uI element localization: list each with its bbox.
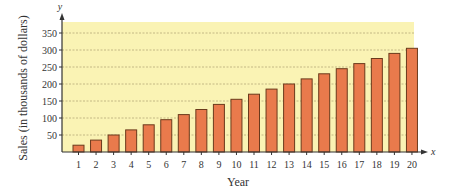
x-tick-label: 2 [94,159,99,170]
bar [301,79,312,152]
bar [91,140,102,152]
bar [354,64,365,152]
x-tick-label: 18 [372,159,382,170]
x-axis-arrow-icon [421,150,428,155]
x-axis-letter: x [430,146,436,157]
bar [336,69,347,152]
x-tick-label: 7 [181,159,186,170]
y-axis-arrow-icon [60,13,65,20]
x-axis-title: Year [227,175,249,189]
bar [126,130,137,152]
bar [406,48,417,152]
bar [161,120,172,152]
x-tick-label: 10 [231,159,241,170]
y-tick-label: 300 [42,45,57,56]
x-tick-label: 11 [249,159,259,170]
y-tick-labels: 50100150200250300350 [42,28,57,141]
bar [319,74,330,152]
y-tick-label: 250 [42,62,57,73]
bar [73,145,84,152]
x-tick-label: 6 [164,159,169,170]
x-tick-label: 17 [354,159,364,170]
x-tick-label: 13 [284,159,294,170]
y-axis-title: Sales (in thousands of dollars) [16,15,30,160]
bar [389,53,400,152]
y-tick-label: 200 [42,79,57,90]
x-tick-label: 3 [111,159,116,170]
bar [266,89,277,152]
bar [143,125,154,152]
bar [284,84,295,152]
x-tick-label: 9 [216,159,221,170]
bar [371,59,382,153]
x-tick-label: 16 [337,159,347,170]
bar [196,110,207,153]
y-tick-label: 100 [42,113,57,124]
x-tick-label: 8 [199,159,204,170]
bar [213,104,224,152]
x-tick-label: 20 [407,159,417,170]
bar-chart: 50100150200250300350 1234567891011121314… [0,0,449,192]
x-tick-label: 1 [76,159,81,170]
bar [231,99,242,152]
x-tick-label: 15 [319,159,329,170]
bar [249,94,260,152]
x-tick-label: 12 [267,159,277,170]
x-tick-label: 19 [389,159,399,170]
bar [108,135,119,152]
y-tick-label: 150 [42,96,57,107]
x-tick-label: 5 [146,159,151,170]
bar [178,115,189,152]
x-tick-labels: 1234567891011121314151617181920 [76,152,417,170]
y-tick-label: 350 [42,28,57,39]
y-tick-label: 50 [47,130,57,141]
x-tick-label: 14 [302,159,312,170]
x-tick-label: 4 [129,159,134,170]
y-axis-letter: y [57,1,63,12]
